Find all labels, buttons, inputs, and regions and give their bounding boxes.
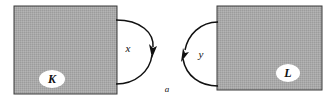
arc-y-label: y [198, 48, 204, 60]
region-l-label: L [283, 66, 291, 80]
arc-x-group: x [116, 20, 157, 84]
arc-y-lower-path [183, 59, 218, 86]
region-k-label: K [47, 72, 57, 86]
region-k-group: K [14, 6, 117, 94]
arc-y-group: y [181, 22, 218, 86]
figure-canvas: K L x y a [0, 0, 335, 106]
arc-y-upper-path [185, 22, 218, 50]
point-a-label: a [165, 84, 170, 94]
arc-x-lower-path [116, 55, 152, 84]
region-l-rect [217, 6, 322, 90]
region-k-rect [14, 6, 117, 94]
arc-y-arrowhead-icon [181, 48, 189, 62]
arc-x-upper-path [116, 20, 153, 47]
diagram-svg: K L x y a [0, 0, 335, 106]
region-l-group: L [217, 6, 322, 90]
arc-x-label: x [125, 42, 131, 54]
